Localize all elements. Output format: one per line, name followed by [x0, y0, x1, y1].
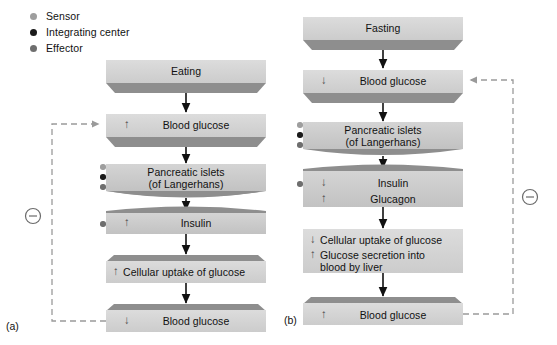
change-secretion: ↑ [310, 248, 316, 261]
flowchart-graphics [0, 0, 557, 345]
integrating-center-marker-icon-b [297, 132, 303, 138]
panel-label-b: (b) [284, 314, 297, 326]
label-pancreatic-islets-b-line1: Pancreatic islets [303, 124, 463, 137]
effector-marker-icon [100, 184, 106, 190]
label-insulin-b: Insulin [313, 177, 473, 190]
label-insulin: Insulin [116, 217, 276, 230]
label-blood-glucose-up-b: Blood glucose [313, 309, 473, 322]
effector-marker-icon-insulin [100, 221, 106, 227]
panel-label-a: (a) [6, 320, 19, 332]
sensor-marker-icon-b [297, 122, 303, 128]
effector-marker-icon-b [297, 142, 303, 148]
change-cellular-uptake: ↑ [113, 265, 119, 278]
sensor-marker-icon [100, 164, 106, 170]
label-glucagon: Glucagon [313, 193, 473, 206]
effector-marker-icon-hormones [297, 181, 303, 187]
label-eating: Eating [106, 65, 266, 78]
label-cellular-uptake: Cellular uptake of glucose [123, 266, 245, 279]
change-uptake-b: ↓ [310, 233, 316, 246]
label-secretion-line2: blood by liver [320, 261, 383, 274]
label-blood-glucose-down: Blood glucose [116, 315, 276, 328]
figure-canvas: Sensor Integrating center Effector [0, 0, 557, 345]
label-pancreatic-islets-b-line2: (of Langerhans) [303, 136, 463, 149]
label-pancreatic-islets-line2: (of Langerhans) [106, 178, 266, 191]
integrating-center-marker-icon [100, 174, 106, 180]
label-blood-glucose-up: Blood glucose [116, 119, 276, 132]
feedback-loop-b [463, 80, 538, 314]
label-pancreatic-islets-line1: Pancreatic islets [106, 166, 266, 179]
label-secretion-line1: Glucose secretion into [320, 249, 425, 262]
feedback-loop-a [26, 124, 107, 321]
label-blood-glucose-down-b: Blood glucose [313, 75, 473, 88]
label-uptake-b: Cellular uptake of glucose [320, 234, 442, 247]
label-fasting: Fasting [303, 22, 463, 35]
